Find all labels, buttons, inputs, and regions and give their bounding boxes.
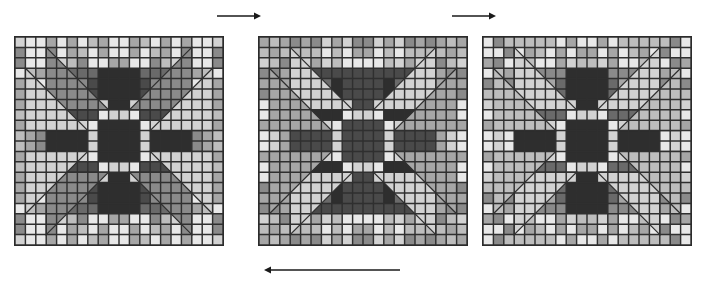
quilt-cell [192, 58, 202, 68]
quilt-cell [311, 235, 321, 245]
quilt-cell [483, 47, 493, 57]
quilt-cell [545, 131, 555, 141]
quilt-cell [259, 172, 269, 182]
quilt-cell [660, 141, 670, 151]
quilt-cell [202, 214, 212, 224]
quilt-cell [171, 47, 181, 57]
quilt-cell [109, 141, 119, 151]
quilt-cell [88, 235, 98, 245]
quilt-cell [457, 162, 467, 172]
quilt-cell [436, 235, 446, 245]
quilt-cell [280, 37, 290, 47]
quilt-cell [119, 151, 129, 161]
quilt-cell [525, 224, 535, 234]
quilt-cell [15, 99, 25, 109]
quilt-cell [202, 131, 212, 141]
quilt-cell [342, 235, 352, 245]
quilt-cell [109, 37, 119, 47]
quilt-cell [597, 120, 607, 130]
quilt-cell [109, 224, 119, 234]
quilt-cell [493, 235, 503, 245]
quilt-cell [587, 68, 597, 78]
quilt-cell [109, 203, 119, 213]
quilt-cell [46, 235, 56, 245]
quilt-cell [566, 79, 576, 89]
quilt-cell [77, 47, 87, 57]
quilt-cell [353, 235, 363, 245]
quilt-cell [57, 235, 67, 245]
quilt-cell [493, 214, 503, 224]
quilt-cell [15, 193, 25, 203]
quilt-cell [98, 89, 108, 99]
quilt-cell [119, 99, 129, 109]
quilt-cell [259, 214, 269, 224]
quilt-cell [129, 89, 139, 99]
quilt-cell [119, 183, 129, 193]
quilt-cell [504, 37, 514, 47]
quilt-cell [342, 68, 352, 78]
quilt-cell [394, 224, 404, 234]
quilt-cell [129, 120, 139, 130]
arrow-panel3-to-panel1 [256, 262, 408, 278]
quilt-cell [639, 47, 649, 57]
quilt-cell [192, 47, 202, 57]
quilt-cell [213, 120, 223, 130]
quilt-cell [577, 68, 587, 78]
quilt-cell [213, 203, 223, 213]
quilt-cell [394, 58, 404, 68]
quilt-cell [301, 141, 311, 151]
quilt-cell [394, 68, 404, 78]
quilt-cell [311, 224, 321, 234]
quilt-cell [129, 193, 139, 203]
quilt-cell [436, 214, 446, 224]
quilt-cell [577, 183, 587, 193]
quilt-cell [373, 151, 383, 161]
quilt-cell [259, 131, 269, 141]
quilt-cell [556, 214, 566, 224]
quilt-cell [36, 214, 46, 224]
quilt-gridline-group [483, 37, 691, 245]
quilt-cell [77, 203, 87, 213]
quilt-cell [483, 120, 493, 130]
quilt-cell [109, 120, 119, 130]
quilt-cell [88, 79, 98, 89]
quilt-cell [88, 68, 98, 78]
quilt-cell [77, 131, 87, 141]
quilt-cell [119, 131, 129, 141]
quilt-cell [332, 214, 342, 224]
quilt-cell [342, 183, 352, 193]
quilt-cell [213, 37, 223, 47]
quilt-cell [457, 99, 467, 109]
quilt-cell [504, 68, 514, 78]
quilt-cell [384, 235, 394, 245]
quilt-cell [457, 193, 467, 203]
quilt-cell [681, 99, 691, 109]
quilt-cell [660, 47, 670, 57]
quilt-cell [25, 224, 35, 234]
quilt-cell [577, 162, 587, 172]
quilt-cell [25, 131, 35, 141]
quilt-cell [618, 47, 628, 57]
quilt-cell [446, 58, 456, 68]
quilt-cell [639, 37, 649, 47]
quilt-cell [280, 68, 290, 78]
quilt-cell [405, 58, 415, 68]
quilt-cell [514, 131, 524, 141]
quilt-cell [181, 141, 191, 151]
quilt-cell [57, 131, 67, 141]
quilt-cell [140, 68, 150, 78]
quilt-cell [545, 203, 555, 213]
quilt-cell [597, 141, 607, 151]
quilt-cell [342, 151, 352, 161]
quilt-cell [556, 47, 566, 57]
quilt-cell [342, 193, 352, 203]
quilt-cell [109, 151, 119, 161]
quilt-cell [618, 37, 628, 47]
quilt-cell [332, 224, 342, 234]
quilt-cell [332, 68, 342, 78]
quilt-cell [280, 141, 290, 151]
quilt-cell [88, 58, 98, 68]
quilt-cell [46, 131, 56, 141]
quilt-cell [545, 58, 555, 68]
quilt-cell [504, 224, 514, 234]
